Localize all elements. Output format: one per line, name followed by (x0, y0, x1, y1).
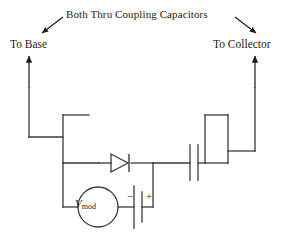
label-to-base: To Base (10, 39, 47, 51)
circuit-diagram-figure: Both Thru Coupling Capacitors To Base To… (0, 0, 297, 244)
battery-negative-sign: − (127, 191, 133, 202)
diode-symbol (111, 154, 129, 172)
label-to-collector: To Collector (213, 39, 271, 51)
schematic-drawing (0, 0, 297, 244)
vmod-subscript: mod (82, 202, 96, 211)
annotation-title: Both Thru Coupling Capacitors (66, 9, 208, 20)
battery-positive-sign: + (146, 191, 152, 202)
title-to-collector-arrow (235, 17, 256, 33)
label-voltage-source: Vmod (75, 198, 96, 209)
title-to-base-arrow (42, 17, 63, 33)
vmod-symbol: V (75, 197, 82, 209)
